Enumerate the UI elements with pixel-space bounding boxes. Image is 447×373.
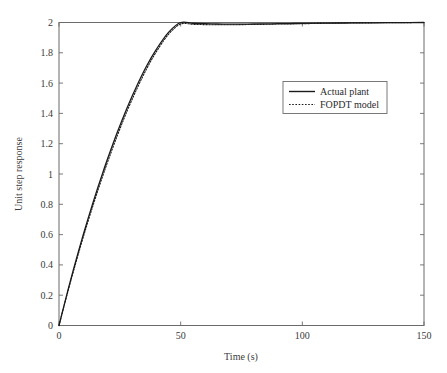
y-axis-title: Unit step response: [13, 137, 24, 211]
y-tick-label: 1.2: [41, 138, 54, 149]
chart-figure: 00.20.40.60.811.21.41.61.82 050100150 Ti…: [0, 0, 447, 373]
y-tick-label: 0.6: [41, 229, 54, 240]
x-tick-label: 100: [295, 330, 310, 341]
step-response-line-chart: 00.20.40.60.811.21.41.61.82 050100150 Ti…: [0, 0, 447, 373]
x-tick-label: 0: [57, 330, 62, 341]
legend-label-fopdt-model: FOPDT model: [320, 99, 379, 110]
y-tick-label: 0.2: [41, 290, 54, 301]
y-tick-label: 1.4: [41, 108, 54, 119]
y-tick-label: 1.8: [41, 47, 54, 58]
y-tick-label: 0.4: [41, 259, 54, 270]
x-axis-title: Time (s): [224, 351, 258, 363]
x-tick-label: 50: [176, 330, 186, 341]
y-tick-label: 0: [48, 320, 53, 331]
figure-background: [0, 0, 447, 373]
chart-legend: Actual plant FOPDT model: [283, 82, 387, 114]
y-tick-label: 2: [48, 17, 53, 28]
legend-label-actual-plant: Actual plant: [320, 86, 369, 97]
y-tick-label: 0.8: [41, 199, 54, 210]
x-tick-label: 150: [417, 330, 432, 341]
y-tick-label: 1.6: [41, 78, 54, 89]
y-tick-label: 1: [48, 169, 53, 180]
